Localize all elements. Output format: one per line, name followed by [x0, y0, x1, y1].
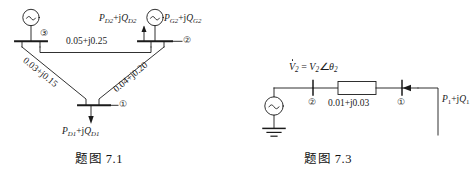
load-label-2: PD2+jQD2 [99, 14, 136, 25]
load-label-1: PD1+jQD1 [62, 127, 99, 138]
node-label-2: ② [308, 98, 316, 107]
figure-7-3-caption: 题图 7.3 [304, 148, 352, 167]
conductor-right-drop [418, 88, 438, 135]
power-label-1: P1+jQ1 [442, 95, 470, 106]
figure-7-3-caption-num: 7.3 [335, 152, 352, 166]
branch-label-2-1: 0.01+j0.03 [328, 99, 369, 109]
load-2-arrow-head [142, 25, 147, 32]
load-1-arrow-head [88, 116, 93, 124]
figure-7-3: V2 = V2∠θ2 0.01+j0.03 ② ① P1+jQ1 题图 7.3 [232, 0, 465, 171]
power-arrow-head [403, 85, 412, 91]
node-label-2: ② [183, 36, 191, 45]
line-3-2 [40, 47, 151, 53]
figure-7-1-caption-num: 7.1 [106, 152, 123, 166]
figure-7-1-caption: 题图 7.1 [75, 148, 123, 167]
generation-label-2: PG2+jQG2 [164, 14, 201, 25]
figure-7-3-caption-cn: 题图 [304, 151, 331, 166]
node-label-3: ③ [40, 29, 48, 38]
generator-2-sine [151, 16, 160, 20]
node-label-1: ① [397, 98, 405, 107]
node-label-1: ① [119, 100, 127, 109]
figure-7-3-drawing [232, 0, 465, 171]
figure-7-1-caption-cn: 题图 [75, 151, 102, 166]
voltage-label-node-2: V2 = V2∠θ2 [289, 62, 338, 74]
figure-7-1: 0.05+j0.25 0.03+j0.15 0.04+j0.20 ③ ② ① P… [0, 0, 232, 171]
generator-3-sine [27, 16, 36, 20]
branch-label-3-2: 0.05+j0.25 [66, 37, 107, 47]
source-generator-sine [269, 105, 279, 109]
impedance-box [338, 82, 376, 95]
source-generator-circle [265, 97, 283, 115]
